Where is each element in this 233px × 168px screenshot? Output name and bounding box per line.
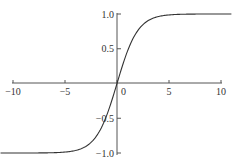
chart: −10−50510 1.00.5−0.5−1.0 — [0, 0, 233, 168]
x-tick-label: 0 — [121, 86, 126, 97]
x-tick-label: −10 — [5, 86, 21, 97]
y-tick-label: 0.5 — [102, 43, 115, 54]
x-tick-label: 5 — [167, 86, 172, 97]
y-tick-label: −1.0 — [96, 148, 114, 159]
x-tick-label: 10 — [216, 86, 226, 97]
y-tick-label: −0.5 — [96, 113, 114, 124]
y-tick-label: 1.0 — [102, 9, 115, 20]
x-tick-label: −5 — [60, 86, 71, 97]
